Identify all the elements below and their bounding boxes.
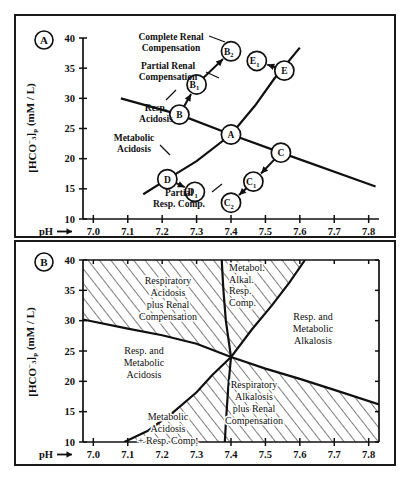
x-axis-arrow-head [67, 451, 73, 457]
annotation-line: Partial [165, 188, 193, 198]
ann-complete-renal: Complete RenalCompensation [138, 32, 204, 53]
annotation-line: Resp. Comp. [153, 199, 205, 209]
region-label-line: Respiratory [145, 275, 192, 286]
data-point-A[interactable]: A [221, 125, 240, 144]
point-label: D [164, 175, 171, 185]
region-label-line: plus Renal [147, 299, 190, 310]
x-axis-title: pH [39, 226, 53, 236]
x-tick-label: 7.0 [87, 449, 100, 460]
acid-base-nomogram-figure: 101520253035407.07.17.27.37.47.57.67.77.… [0, 0, 409, 480]
annotation-line: Compensation [142, 43, 201, 53]
data-point-C[interactable]: C [271, 143, 290, 162]
y-tick-label: 40 [65, 33, 76, 44]
data-point-C1[interactable]: C1 [244, 172, 263, 191]
x-tick-label: 7.4 [224, 449, 238, 460]
y-tick-label: 15 [65, 406, 76, 417]
data-point-E[interactable]: E [275, 61, 294, 80]
panel-tag: B [35, 253, 53, 271]
y-axis-title: [HCO−3]p (mM / L) [24, 83, 39, 173]
x-tick-label: 7.1 [121, 226, 134, 236]
region-label-line: Acidosis [127, 369, 162, 380]
panel-tag-label: B [40, 256, 48, 268]
data-point-D[interactable]: D [158, 170, 177, 189]
region-label-line: Metabolic [293, 323, 334, 334]
region-label-line: Compensation [139, 311, 197, 322]
ann-resp-acidosis: Resp.Acidosis [139, 103, 173, 124]
region-label-line: Resp. [229, 285, 252, 296]
panel-tag-label: A [40, 34, 48, 46]
annotation-line: Complete Renal [138, 32, 204, 42]
data-point-C2[interactable]: C2 [221, 193, 240, 212]
point-label: A [228, 130, 235, 140]
ann-metabolic-acidosis: MetabolicAcidosis [114, 133, 155, 154]
svg-text:[HCO−3]p (mM / L): [HCO−3]p (mM / L) [24, 307, 39, 397]
region-label-line: Resp. and [293, 311, 332, 322]
y-tick-label: 10 [65, 214, 76, 225]
x-tick-label: 7.1 [121, 449, 134, 460]
y-tick-label: 40 [65, 255, 76, 266]
region-label-line: Alkalosis [294, 335, 332, 346]
svg-text:[HCO−3]p (mM / L): [HCO−3]p (mM / L) [24, 83, 39, 173]
x-tick-label: 7.0 [87, 226, 100, 236]
annotation-leader-2 [166, 90, 176, 100]
region-label-line: Metabolic [148, 411, 189, 422]
y-tick-label: 25 [65, 123, 76, 134]
region-label-line: + Resp. Comp. [138, 435, 198, 446]
point-label: B [176, 110, 183, 120]
x-tick-label: 7.3 [190, 226, 203, 236]
x-tick-label: 7.8 [362, 449, 375, 460]
region-resp-met-acid: Resp. andResp. andMetabolicMetabolicAcid… [124, 345, 165, 380]
x-tick-label: 7.3 [190, 449, 203, 460]
region-label-line: Alkalosis [235, 391, 273, 402]
annotation-leader-1 [206, 72, 219, 78]
x-tick-label: 7.2 [156, 449, 169, 460]
y-tick-label: 35 [65, 63, 76, 74]
annotation-line: Acidosis [139, 114, 173, 124]
x-tick-label: 7.2 [156, 226, 169, 236]
y-tick-label: 30 [65, 315, 76, 326]
arrowhead [267, 64, 275, 70]
y-tick-label: 20 [65, 376, 76, 387]
axes: 101520253035407.07.17.27.37.47.57.67.77.… [39, 33, 379, 236]
annotation-leader-0 [209, 36, 225, 42]
annotation-line: Acidosis [117, 144, 151, 154]
region-resp-acid-renal: RespiratoryRespiratoryAcidosisAcidosispl… [139, 275, 197, 322]
data-point-E1[interactable]: E1 [247, 51, 266, 70]
y-tick-label: 25 [65, 346, 76, 357]
y-tick-label: 30 [65, 93, 76, 104]
panel-a-plot: 101520253035407.07.17.27.37.47.57.67.77.… [16, 16, 394, 236]
point-label: E [281, 66, 287, 76]
annotation-line: Partial Renal [141, 61, 195, 71]
annotation-leader-3 [160, 145, 170, 155]
annotation-line: Metabolic [114, 133, 155, 143]
data-point-B2[interactable]: B2 [221, 42, 240, 61]
region-label-line: Metabol. [229, 262, 265, 273]
region-resp-met-alkal: Resp. andResp. andMetabolicMetabolicAlka… [293, 311, 334, 346]
panel-a: 101520253035407.07.17.27.37.47.57.67.77.… [14, 14, 396, 238]
region-label-line: Acidosis [151, 287, 186, 298]
y-tick-label: 35 [65, 285, 76, 296]
y-tick-label: 10 [65, 437, 76, 448]
region-label-line: plus Renal [233, 403, 276, 414]
point-label: C [277, 148, 284, 158]
region-label-line: Respiratory [231, 379, 278, 390]
region-label-line: Acidosis [151, 423, 186, 434]
x-tick-label: 7.7 [328, 449, 341, 460]
x-tick-label: 7.8 [362, 226, 375, 236]
x-tick-label: 7.4 [224, 226, 238, 236]
x-axis-arrow-head [67, 228, 73, 234]
region-label-line: Alkal. [229, 274, 254, 285]
x-tick-label: 7.5 [259, 226, 272, 236]
x-tick-label: 7.5 [259, 449, 272, 460]
x-tick-label: 7.6 [293, 449, 306, 460]
panel-b-plot: 101520253035407.07.17.27.37.47.57.67.77.… [16, 242, 394, 464]
annotation-line: Compensation [139, 72, 198, 82]
annotation-leader-4 [212, 184, 222, 192]
ann-partial-renal: Partial RenalCompensation [139, 61, 198, 82]
y-axis-title: [HCO−3]p (mM / L) [24, 307, 39, 397]
annotation-line: Resp. [145, 103, 167, 113]
region-label-line: Compensation [225, 415, 283, 426]
x-tick-label: 7.7 [328, 226, 341, 236]
region-label-line: Resp. and [124, 345, 163, 356]
y-tick-label: 15 [65, 183, 76, 194]
